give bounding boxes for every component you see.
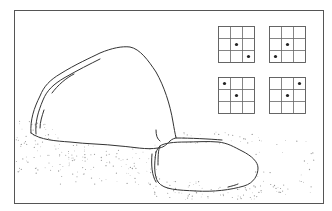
grid-dot: [235, 43, 238, 46]
dot-grid-top-left: [219, 27, 255, 63]
dot-grids: [219, 27, 306, 114]
grid-dot: [247, 55, 250, 58]
grid-dot: [223, 82, 226, 85]
boulder-illustration: [0, 0, 332, 211]
dot-grid-bottom-right: [270, 78, 306, 114]
dot-grid-top-right: [270, 27, 306, 63]
small-boulder: [152, 142, 258, 192]
grid-dot: [298, 82, 301, 85]
grid-dot: [286, 94, 289, 97]
grid-dot: [235, 94, 238, 97]
dot-grid-bottom-left: [219, 78, 255, 114]
ground-stipple: [16, 121, 315, 200]
grid-dot: [274, 55, 277, 58]
large-boulder: [31, 47, 222, 149]
grid-dot: [286, 43, 289, 46]
picture-frame: [15, 11, 324, 204]
